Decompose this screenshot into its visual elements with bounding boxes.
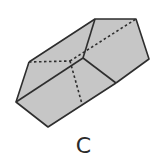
figure-label: C [0, 133, 167, 158]
